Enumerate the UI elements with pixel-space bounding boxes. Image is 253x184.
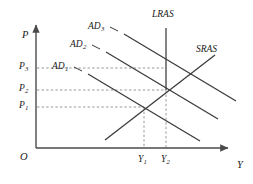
- y-tick-p3: P3: [19, 62, 28, 72]
- curve-label-sras: SRAS: [196, 45, 217, 55]
- x-tick-y2-base: Y: [161, 154, 166, 164]
- curve-label-ad1: AD1: [52, 62, 68, 72]
- y-tick-p1-sub: 1: [25, 104, 28, 111]
- curve-label-ad3: AD3: [88, 22, 104, 32]
- x-tick-y1-base: Y: [138, 154, 143, 164]
- x-tick-y2-sub: 2: [167, 158, 170, 165]
- curve-label-ad1-base: AD: [52, 61, 65, 71]
- y-tick-p1: P1: [19, 101, 28, 111]
- y-tick-p3-sub: 3: [25, 65, 28, 72]
- origin-label: O: [20, 152, 28, 163]
- y-tick-p2-base: P: [19, 83, 25, 93]
- y-tick-p2-sub: 2: [25, 87, 28, 94]
- leader-ad2: [92, 45, 100, 49]
- x-axis-label: Y: [237, 160, 243, 171]
- x-tick-y1: Y1: [138, 155, 147, 165]
- curve-ad2: [106, 52, 218, 119]
- y-tick-p2: P2: [19, 84, 28, 94]
- y-axis-label: P: [22, 30, 28, 41]
- curve-label-ad1-sub: 1: [65, 65, 68, 72]
- curve-label-lras: LRAS: [152, 10, 174, 20]
- x-tick-y1-sub: 1: [144, 158, 147, 165]
- curve-label-ad3-base: AD: [88, 21, 101, 31]
- curve-label-ad3-sub: 3: [101, 25, 104, 32]
- curve-label-ad2-sub: 2: [83, 43, 86, 50]
- leader-ad3: [110, 27, 118, 31]
- diagram-canvas: [0, 0, 253, 184]
- curve-ad3: [124, 34, 236, 101]
- x-tick-y2: Y2: [161, 155, 170, 165]
- curve-label-ad2: AD2: [70, 40, 86, 50]
- curve-label-ad2-base: AD: [70, 39, 83, 49]
- ad-as-diagram: P Y O P3 P2 P1 Y1 Y2 AD3 AD2 AD1 LRAS SR…: [0, 0, 253, 184]
- y-tick-p1-base: P: [19, 100, 25, 110]
- y-tick-p3-base: P: [19, 61, 25, 71]
